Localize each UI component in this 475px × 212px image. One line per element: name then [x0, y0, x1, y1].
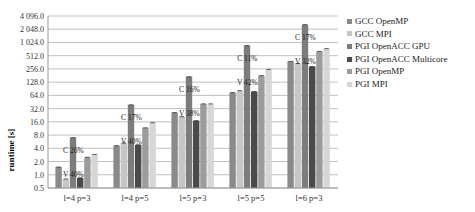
- bar: [135, 145, 141, 188]
- bar: [55, 167, 61, 188]
- legend-item: PGI OpenACC GPU: [347, 40, 471, 53]
- bar: [121, 143, 127, 188]
- legend-label: PGI OpenMP: [355, 65, 404, 78]
- x-category-label: l=5 p=5: [238, 193, 265, 203]
- y-tick-label: 64.0: [30, 91, 44, 100]
- legend-label: PGI OpenACC GPU: [355, 40, 430, 53]
- legend-label: GCC MPI: [355, 28, 392, 41]
- v-annotation: V 38%: [179, 109, 200, 118]
- legend-item: PGI OpenMP: [347, 65, 471, 78]
- bar: [113, 146, 119, 188]
- legend-swatch-icon: [347, 57, 352, 62]
- bar: [309, 67, 315, 188]
- legend-label: PGI OpenACC Multicore: [355, 53, 448, 66]
- y-tick-label: 16.0: [30, 118, 44, 127]
- x-axis-categories: l=4 p=3l=4 p=5l=5 p=3l=5 p=5l=6 p=3: [64, 193, 323, 203]
- bar: [77, 178, 83, 188]
- bar: [207, 104, 213, 188]
- legend-item: PGI MPI: [347, 78, 471, 91]
- y-tick-label: 1 024.0: [20, 38, 44, 47]
- c-annotation: C 16%: [179, 85, 200, 94]
- bar: [142, 128, 148, 188]
- y-tick-label: 4.0: [34, 144, 44, 153]
- c-annotation: C 17%: [295, 33, 316, 42]
- v-annotation: V 40%: [121, 137, 142, 146]
- x-category-label: l=6 p=3: [296, 193, 323, 203]
- bar: [287, 61, 293, 188]
- y-tick-label: 0.5: [34, 184, 44, 193]
- x-category-label: l=5 p=3: [180, 193, 207, 203]
- legend-item: PGI OpenACC Multicore: [347, 53, 471, 66]
- v-annotation: V 42%: [237, 78, 258, 87]
- bar: [302, 25, 308, 188]
- bar: [244, 46, 250, 188]
- bar: [251, 92, 257, 188]
- y-tick-label: 4 096.0: [20, 12, 44, 21]
- y-tick-label: 256.0: [26, 65, 44, 74]
- x-category-label: l=4 p=5: [122, 193, 149, 203]
- bar: [200, 104, 206, 188]
- legend-swatch-icon: [347, 69, 352, 74]
- legend-item: GCC MPI: [347, 28, 471, 41]
- bar: [316, 51, 322, 188]
- legend: GCC OpenMPGCC MPIPGI OpenACC GPUPGI Open…: [347, 15, 471, 91]
- bar: [84, 157, 90, 188]
- y-axis-ticks: 0.51.02.04.08.016.032.064.0128.0256.0512…: [20, 12, 44, 193]
- bar: [149, 123, 155, 188]
- y-tick-label: 512.0: [26, 52, 44, 61]
- legend-label: GCC OpenMP: [355, 15, 408, 28]
- c-annotation: C 11%: [237, 54, 257, 63]
- c-annotation: C 17%: [121, 113, 142, 122]
- v-annotation: V 40%: [63, 170, 84, 179]
- legend-swatch-icon: [347, 82, 352, 87]
- legend-swatch-icon: [347, 31, 352, 36]
- y-tick-label: 1.0: [34, 171, 44, 180]
- x-category-label: l=4 p=3: [64, 193, 91, 203]
- y-tick-label: 2 048.0: [20, 25, 44, 34]
- y-tick-label: 128.0: [26, 78, 44, 87]
- bar: [229, 93, 235, 188]
- y-tick-label: 32.0: [30, 105, 44, 114]
- bar: [91, 154, 97, 188]
- v-annotation: V 32%: [295, 57, 316, 66]
- bars: [55, 25, 329, 188]
- bar: [179, 117, 185, 188]
- bar: [193, 121, 199, 188]
- bar: [171, 113, 177, 188]
- y-tick-label: 8.0: [34, 131, 44, 140]
- bar: [323, 49, 329, 188]
- legend-item: GCC OpenMP: [347, 15, 471, 28]
- legend-label: PGI MPI: [355, 78, 388, 91]
- y-axis-label: runtime [s]: [6, 129, 16, 172]
- c-annotation: C 26%: [63, 146, 84, 155]
- y-tick-label: 2.0: [34, 158, 44, 167]
- legend-swatch-icon: [347, 19, 352, 24]
- bar: [63, 179, 69, 188]
- bar: [295, 64, 301, 188]
- bar: [265, 69, 271, 188]
- legend-swatch-icon: [347, 44, 352, 49]
- bar: [258, 76, 264, 188]
- bar: [237, 91, 243, 188]
